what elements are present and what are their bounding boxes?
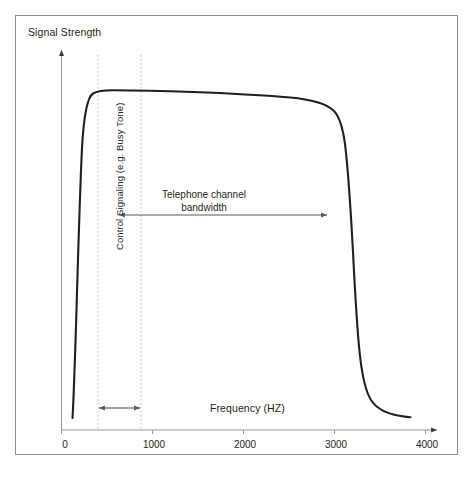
x-axis-title: Frequency (HZ): [210, 402, 285, 414]
x-tick-label-1000: 1000: [129, 439, 179, 450]
control-signaling-annotation: Control Signaling (e.g. Busy Tone): [114, 103, 125, 250]
x-tick-label-3000: 3000: [311, 439, 361, 450]
telephone-bandwidth-line1: Telephone channel: [162, 188, 246, 201]
telephone-bandwidth-annotation: Telephone channel bandwidth: [162, 188, 246, 214]
y-axis-title: Signal Strength: [28, 26, 101, 38]
figure-root: Signal Strength Frequency (HZ) Telephone…: [0, 0, 476, 477]
x-tick-label-0: 0: [40, 439, 90, 450]
x-tick-label-2000: 2000: [220, 439, 270, 450]
telephone-bandwidth-line2: bandwidth: [162, 201, 246, 214]
x-tick-label-4000: 4000: [402, 439, 452, 450]
